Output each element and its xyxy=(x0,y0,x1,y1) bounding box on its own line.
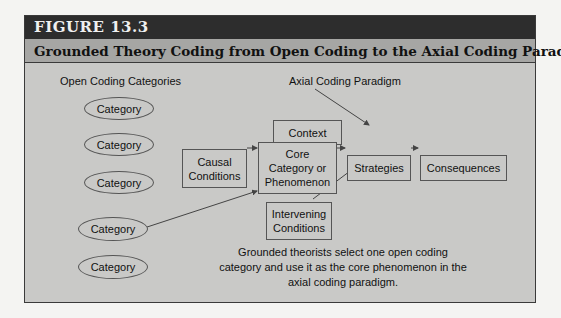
figure-title: Grounded Theory Coding from Open Coding … xyxy=(25,39,535,63)
consequences-box: Consequences xyxy=(420,155,507,181)
category-ellipse-3: Category xyxy=(84,171,154,194)
axial-coding-heading: Axial Coding Paradigm xyxy=(289,75,401,87)
category-ellipse-2: Category xyxy=(84,133,154,156)
intervening-conditions-box: Intervening Conditions xyxy=(266,202,332,240)
figure-frame: FIGURE 13.3 Grounded Theory Coding from … xyxy=(24,15,536,303)
core-category-box: Core Category or Phenomenon xyxy=(258,142,337,194)
diagram-body: Open Coding Categories Axial Coding Para… xyxy=(25,64,535,303)
diagram-caption: Grounded theorists select one open codin… xyxy=(218,245,468,290)
strategies-box: Strategies xyxy=(347,155,411,181)
open-coding-heading: Open Coding Categories xyxy=(60,75,181,87)
figure-number: FIGURE 13.3 xyxy=(25,16,535,39)
category-ellipse-1: Category xyxy=(84,97,154,120)
category-ellipse-5: Category xyxy=(78,255,148,279)
causal-conditions-box: Causal Conditions xyxy=(182,149,247,188)
category-ellipse-4: Category xyxy=(78,217,148,241)
